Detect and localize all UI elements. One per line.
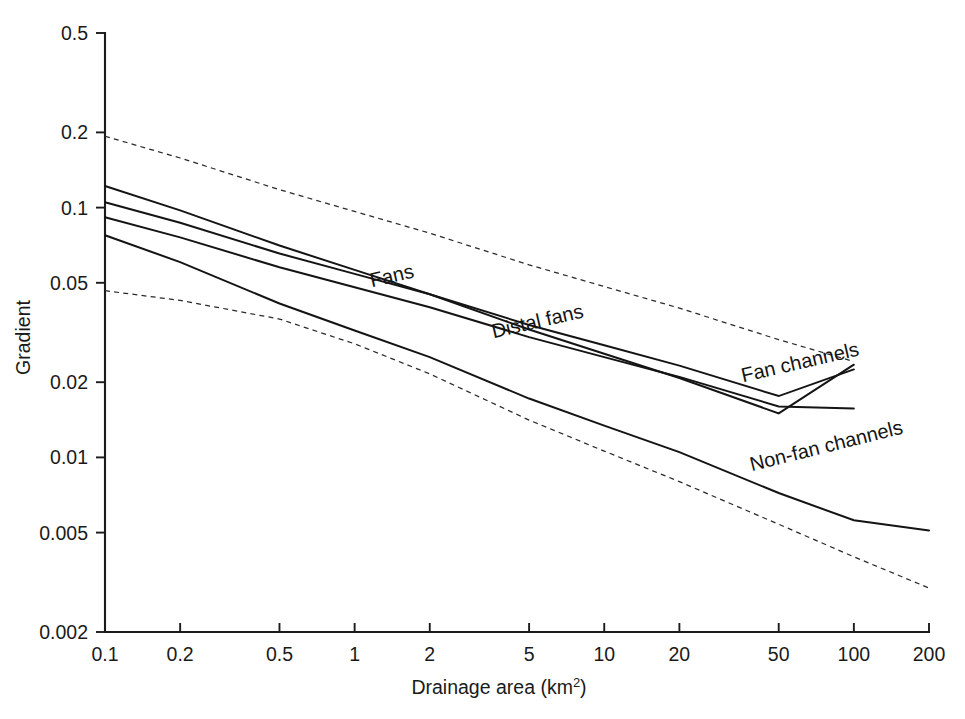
axis-titles-group: GradientDrainage area (km2) [12, 300, 587, 698]
chart-canvas: 0.0020.0050.010.020.050.10.20.50.10.20.5… [0, 0, 965, 719]
y-tick-label-6: 0.2 [61, 121, 88, 143]
x-tick-label-8: 50 [768, 643, 790, 665]
y-tick-label-7: 0.5 [61, 22, 88, 44]
x-axis-title: Drainage area (km2) [411, 675, 586, 698]
x-axis-title-superscript: 2 [573, 675, 580, 690]
x-tick-label-2: 0.5 [266, 643, 293, 665]
curve-label-non-fan-channels: Non-fan channels [747, 416, 904, 475]
x-tick-label-9: 100 [838, 643, 871, 665]
y-tick-label-3: 0.02 [50, 371, 88, 393]
y-tick-label-2: 0.01 [50, 446, 88, 468]
x-axis-title-tail: ) [580, 676, 587, 698]
curve-annotations-group: FansDistal fansFan channelsNon-fan chann… [368, 260, 905, 475]
x-axis-title-base: Drainage area (km [411, 676, 572, 698]
curve-label-fan-channels: Fan channels [739, 338, 861, 386]
x-tick-label-1: 0.2 [167, 643, 194, 665]
x-tick-label-4: 2 [424, 643, 435, 665]
x-tick-label-0: 0.1 [91, 643, 118, 665]
series-line-non-fan-channels [105, 235, 929, 530]
x-tick-label-7: 20 [669, 643, 691, 665]
y-tick-label-0: 0.002 [39, 621, 88, 643]
y-tick-label-5: 0.1 [61, 197, 88, 219]
tick-labels-group: 0.0020.0050.010.020.050.10.20.50.10.20.5… [39, 22, 945, 665]
x-tick-label-3: 1 [349, 643, 360, 665]
x-tick-label-5: 5 [524, 643, 535, 665]
figure-root: 0.0020.0050.010.020.050.10.20.50.10.20.5… [0, 0, 965, 719]
y-axis-title: Gradient [12, 300, 34, 375]
x-tick-label-10: 200 [913, 643, 946, 665]
y-tick-label-4: 0.05 [50, 272, 88, 294]
x-tick-label-6: 10 [593, 643, 615, 665]
y-tick-label-1: 0.005 [39, 522, 88, 544]
